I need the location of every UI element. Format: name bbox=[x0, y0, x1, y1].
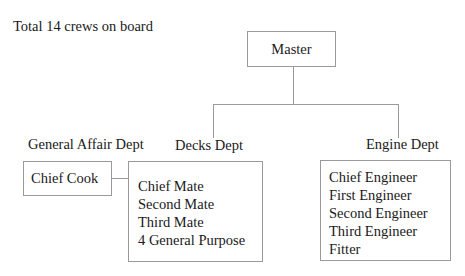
member-first-engineer: First Engineer bbox=[329, 186, 428, 204]
member-chief-cook: Chief Cook bbox=[31, 169, 98, 187]
member-fitter: Fitter bbox=[329, 240, 428, 258]
connector-cook-decks bbox=[111, 178, 128, 179]
dept-heading-engine: Engine Dept bbox=[366, 135, 439, 153]
member-third-engineer: Third Engineer bbox=[329, 222, 428, 240]
decks-member-list: Chief Mate Second Mate Third Mate 4 Gene… bbox=[138, 177, 245, 249]
crew-total-caption: Total 14 crews on board bbox=[13, 17, 153, 35]
member-4-general-purpose: 4 General Purpose bbox=[138, 231, 245, 249]
master-label: Master bbox=[248, 40, 335, 58]
decks-dept-box: Chief Mate Second Mate Third Mate 4 Gene… bbox=[128, 161, 263, 262]
member-chief-mate: Chief Mate bbox=[138, 177, 245, 195]
engine-member-list: Chief Engineer First Engineer Second Eng… bbox=[329, 168, 428, 258]
member-second-engineer: Second Engineer bbox=[329, 204, 428, 222]
master-node: Master bbox=[247, 31, 336, 67]
dept-heading-general-affair: General Affair Dept bbox=[28, 135, 144, 153]
member-chief-engineer: Chief Engineer bbox=[329, 168, 428, 186]
connector-engine-down bbox=[398, 104, 399, 138]
connector-decks-down bbox=[213, 104, 214, 138]
general-affair-box: Chief Cook bbox=[23, 161, 112, 196]
connector-horizontal bbox=[213, 104, 398, 105]
member-second-mate: Second Mate bbox=[138, 195, 245, 213]
member-third-mate: Third Mate bbox=[138, 213, 245, 231]
dept-heading-decks: Decks Dept bbox=[175, 136, 243, 154]
engine-dept-box: Chief Engineer First Engineer Second Eng… bbox=[320, 160, 451, 261]
connector-master-down bbox=[293, 67, 294, 104]
